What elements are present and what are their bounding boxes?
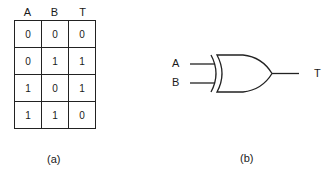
xor-gate-icon bbox=[0, 0, 334, 179]
input-label-a: A bbox=[172, 57, 179, 69]
input-label-b: B bbox=[172, 76, 179, 88]
caption-b: (b) bbox=[240, 152, 253, 164]
output-label-t: T bbox=[314, 67, 321, 79]
